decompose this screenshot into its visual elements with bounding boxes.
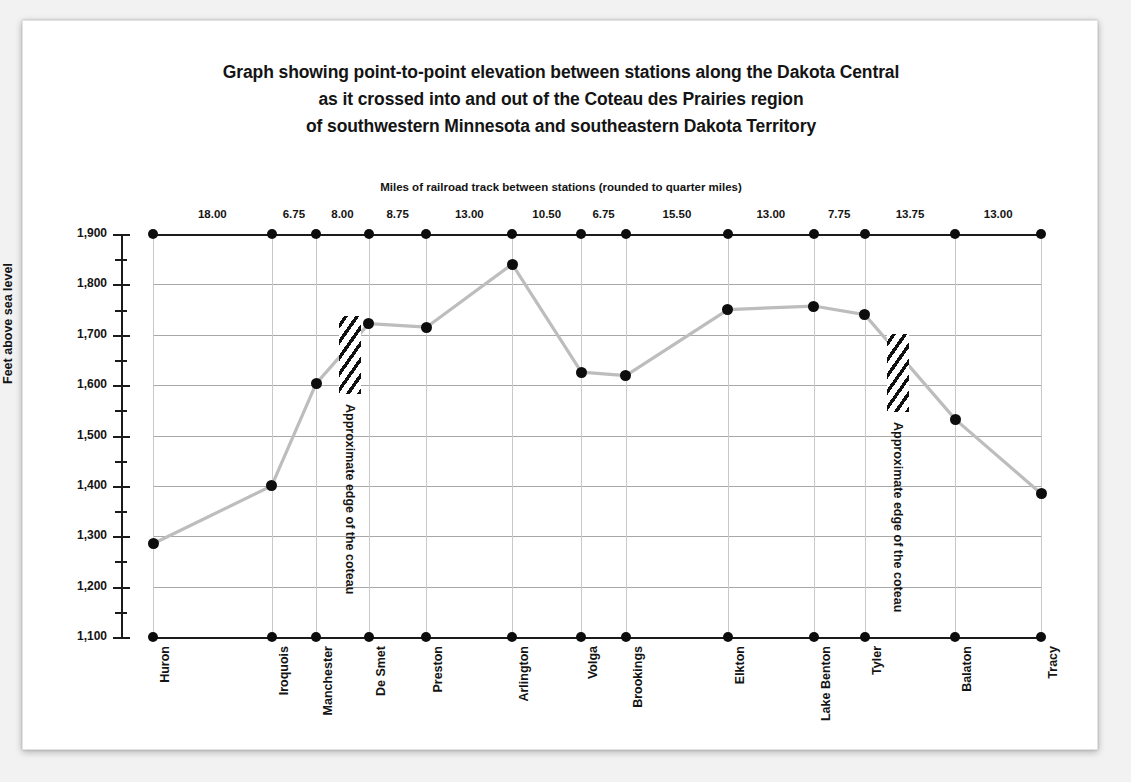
y-axis-tick-major [113,284,130,286]
station-label: De Smet [374,646,388,696]
y-axis-tick-minor [115,561,127,563]
segment-mileage-label: 13.00 [756,208,785,220]
segment-mileage-label: 8.00 [331,208,353,220]
segment-mileage-label: 15.50 [663,208,692,220]
y-axis-tick-minor [115,511,127,513]
chart-title: Graph showing point-to-point elevation b… [23,59,1099,140]
y-axis-tick-minor [115,360,127,362]
y-axis-tick-label: 1,400 [49,478,107,492]
y-axis-tick-major [113,385,130,387]
coteau-label-west: Approximate edge of the coteau [343,404,357,594]
station-label: Elkton [733,646,747,684]
elevation-data-point [311,378,322,389]
top-axis-caption: Miles of railroad track between stations… [23,181,1099,193]
chart-title-line-3: of southwestern Minnesota and southeaste… [23,113,1099,140]
y-axis-tick-major [113,587,130,589]
chart-title-line-2: as it crossed into and out of the Coteau… [23,86,1099,113]
station-label: Tyler [870,646,884,675]
station-label: Volga [586,646,600,679]
station-label: Huron [158,646,172,683]
station-label: Lake Benton [819,646,833,721]
y-axis-tick-label: 1,100 [49,629,107,643]
elevation-data-point [148,538,159,549]
station-label: Brookings [631,646,645,708]
y-axis-tick-major [113,536,130,538]
station-label: Tracy [1046,646,1060,679]
segment-mileage-label: 18.00 [198,208,227,220]
station-label: Arlington [517,646,531,702]
segment-mileage-label: 7.75 [828,208,850,220]
station-label: Iroquois [277,646,291,695]
segment-mileage-label: 10.50 [532,208,561,220]
y-axis-tick-minor [115,612,127,614]
segment-mileage-label: 8.75 [386,208,408,220]
elevation-data-point [950,414,961,425]
y-axis-tick-label: 1,700 [49,327,107,341]
segment-mileage-label: 13.00 [984,208,1013,220]
y-axis-tick-label: 1,300 [49,528,107,542]
screenshot-canvas: Graph showing point-to-point elevation b… [0,0,1131,782]
chart-card: Graph showing point-to-point elevation b… [22,20,1098,750]
elevation-data-point [421,322,432,333]
y-axis-tick-minor [115,310,127,312]
y-axis-tick-major [113,234,130,236]
elevation-data-point [507,259,518,270]
elevation-series-line [153,234,1041,637]
chart-title-line-1: Graph showing point-to-point elevation b… [23,59,1099,86]
y-axis-tick-minor [115,259,127,261]
segment-mileage-label: 13.00 [455,208,484,220]
coteau-hatch-west [339,316,361,394]
y-axis-tick-minor [115,410,127,412]
plot-area: Feet above sea level 1,1001,2001,3001,40… [153,234,1041,637]
station-label: Balaton [960,646,974,692]
y-axis-title: Feet above sea level [1,263,15,384]
y-axis-tick-major [113,637,130,639]
coteau-label-east: Approximate edge of the coteau [891,422,905,612]
station-label: Preston [431,646,445,693]
y-axis-labels: 1,1001,2001,3001,4001,5001,6001,7001,800… [45,234,107,637]
y-axis-tick-label: 1,900 [49,226,107,240]
coteau-hatch-east [887,334,909,412]
coteau-edge-marker-east: Approximate edge of the coteau [887,334,909,412]
station-label: Manchester [321,646,335,715]
gridline-vertical [1041,234,1042,637]
y-axis-tick-minor [115,461,127,463]
y-axis-tick-label: 1,600 [49,377,107,391]
y-axis-tick-major [113,335,130,337]
segment-mileage-label: 13.75 [896,208,925,220]
elevation-data-point [1036,488,1047,499]
elevation-data-point [576,367,587,378]
segment-mileage-label: 6.75 [283,208,305,220]
y-axis-tick-label: 1,500 [49,428,107,442]
y-axis-tick-major [113,486,130,488]
elevation-data-point [808,301,819,312]
y-axis-tick-label: 1,200 [49,579,107,593]
bottom-axis-line [153,637,1041,639]
segment-mileage-label: 6.75 [592,208,614,220]
y-axis-tick-major [113,436,130,438]
coteau-edge-marker-west: Approximate edge of the coteau [339,316,361,394]
y-axis-tick-label: 1,800 [49,276,107,290]
